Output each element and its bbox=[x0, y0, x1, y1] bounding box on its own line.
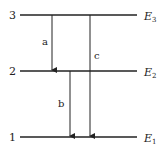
energy-label-e1: E1 bbox=[143, 132, 157, 146]
transition-label-a: a bbox=[42, 36, 48, 47]
level-number-1: 1 bbox=[9, 131, 16, 144]
level-number-3: 3 bbox=[9, 9, 16, 22]
level-number-2: 2 bbox=[9, 65, 16, 78]
energy-label-e3: E3 bbox=[143, 10, 157, 24]
transition-a: a bbox=[42, 15, 52, 70]
energy-label-e2: E2 bbox=[143, 66, 157, 80]
energy-level-1: 1 E1 bbox=[9, 131, 157, 146]
transition-label-b: b bbox=[58, 98, 64, 109]
transition-label-c: c bbox=[94, 50, 100, 61]
energy-level-2: 2 E2 bbox=[9, 65, 157, 80]
energy-level-diagram: 3 E3 2 E2 1 E1 a b c bbox=[0, 0, 167, 152]
energy-level-3: 3 E3 bbox=[9, 9, 157, 24]
transition-b: b bbox=[58, 71, 70, 136]
transition-c: c bbox=[90, 15, 100, 136]
